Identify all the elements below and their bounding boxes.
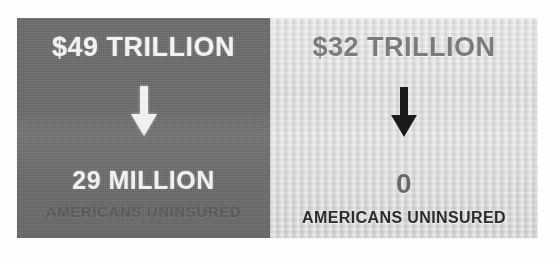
right-panel-headline: $32 TRILLION [312,34,495,61]
current-system-panel: $49 TRILLION 29 MILLION AMERICANS UNINSU… [17,18,270,238]
right-panel-caption: AMERICANS UNINSURED [302,210,506,226]
arrow-down-icon [127,86,161,136]
left-arrow-container [127,86,161,136]
comparison-graphic: $49 TRILLION 29 MILLION AMERICANS UNINSU… [0,0,554,259]
right-panel-content: $32 TRILLION 0 AMERICANS UNINSURED [270,18,538,238]
left-panel-caption: AMERICANS UNINSURED [46,204,242,219]
left-panel-big-number: 29 MILLION [72,168,215,193]
right-panel-big-number: 0 [396,170,412,198]
arrow-down-icon [387,87,421,137]
right-arrow-container [387,87,421,137]
left-panel-headline: $49 TRILLION [52,34,235,61]
left-panel-content: $49 TRILLION 29 MILLION AMERICANS UNINSU… [17,18,270,238]
proposed-system-panel: $32 TRILLION 0 AMERICANS UNINSURED [270,18,538,238]
